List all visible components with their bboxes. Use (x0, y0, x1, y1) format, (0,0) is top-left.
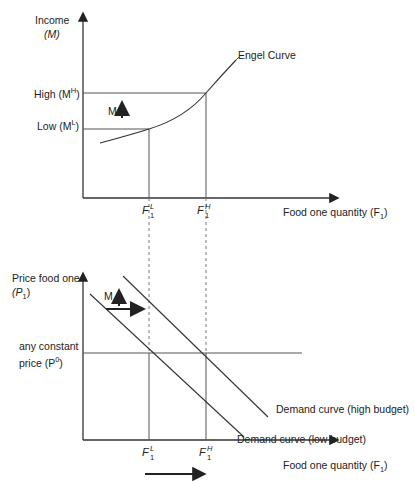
tick-f1-low-bottom: FL1 (142, 444, 156, 467)
bottom-y-axis-symbol: (P1) (12, 286, 30, 301)
constant-price-symbol: price (P0) (19, 355, 63, 369)
bottom-y-axis-label: Price food one (12, 272, 80, 285)
demand-curve-low (90, 294, 244, 437)
high-income-label: High (MH) (34, 86, 80, 100)
engel-curve (100, 60, 236, 143)
top-y-axis-label: Income (35, 14, 69, 27)
bottom-x-axis-label: Food one quantity (F1) (283, 459, 388, 474)
low-income-label: Low (ML) (37, 118, 79, 132)
demand-curve-high (123, 276, 268, 417)
constant-price-label: any constant (19, 340, 79, 353)
tick-f1-high-top: FH1 (197, 202, 211, 225)
engel-curve-label: Engel Curve (238, 49, 296, 62)
tick-f1-low-top: FL1 (142, 202, 156, 225)
demand-low-label: Demand curve (low budget) (237, 433, 366, 446)
demand-high-label: Demand curve (high budget) (276, 403, 409, 416)
m-shift-label-bottom: M (104, 290, 113, 303)
tick-f1-high-bottom: FH1 (199, 444, 213, 467)
top-chart (83, 14, 337, 198)
top-y-axis-label-symbol: (M) (44, 28, 60, 41)
top-x-axis-label: Food one quantity (F1) (283, 206, 388, 221)
m-shift-label-top: M (108, 105, 117, 118)
